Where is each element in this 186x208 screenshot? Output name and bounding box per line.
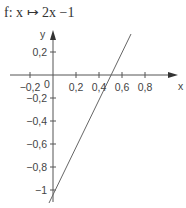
- y-tick-label: −0,8: [26, 161, 47, 173]
- y-tick-label: −1: [35, 184, 47, 196]
- x-tick-label: 0,4: [92, 81, 107, 93]
- function-plot: y x 0 −0,2 0,2 0,4 0,6 0,8 0,2 −0,2 −0,4…: [0, 0, 186, 208]
- x-axis-label: x: [178, 80, 184, 92]
- x-tick-label: 0,2: [69, 81, 84, 93]
- x-tick-label: 0,8: [138, 81, 153, 93]
- y-tick-label: 0,2: [32, 46, 47, 58]
- x-axis-arrow-icon: [168, 72, 178, 78]
- y-axis-arrow-icon: [50, 30, 56, 40]
- function-line: [49, 34, 131, 203]
- y-tick-label: −0,2: [26, 92, 47, 104]
- origin-label: 0: [44, 78, 50, 90]
- y-axis-label: y: [40, 28, 46, 40]
- x-tick-label: 0,6: [115, 81, 130, 93]
- y-tick-label: −0,4: [26, 115, 47, 127]
- y-tick-label: −0,6: [26, 138, 47, 150]
